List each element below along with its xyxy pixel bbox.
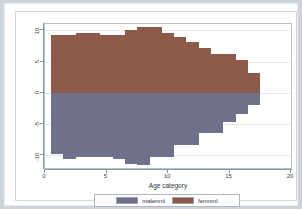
bar-malenml-15 bbox=[223, 93, 235, 122]
bar-femnml-11 bbox=[174, 37, 186, 93]
bar-malenml-14 bbox=[211, 93, 223, 133]
legend-label-male: malenml bbox=[142, 198, 165, 204]
legend-item-female[interactable]: femnml bbox=[172, 197, 218, 204]
bar-femnml-4 bbox=[88, 33, 100, 93]
bar-femnml-8 bbox=[137, 27, 149, 93]
x-tick-label: 0 bbox=[42, 173, 45, 179]
x-tick-label: 10 bbox=[164, 173, 171, 179]
bar-malenml-10 bbox=[162, 93, 174, 157]
x-tick-label: 5 bbox=[104, 173, 107, 179]
bar-malenml-5 bbox=[100, 93, 112, 157]
bar-malenml-16 bbox=[236, 93, 248, 114]
y-tick-label: 0 bbox=[34, 91, 40, 94]
chart-outer-frame: 1050-5-10 05101520 Age category malenml … bbox=[15, 11, 297, 201]
x-axis-title: Age category bbox=[44, 182, 292, 189]
bar-femnml-10 bbox=[162, 33, 174, 93]
bar-malenml-17 bbox=[248, 93, 260, 106]
legend-swatch-male bbox=[116, 197, 138, 204]
bar-femnml-16 bbox=[236, 60, 248, 93]
screenshot-card: 1050-5-10 05101520 Age category malenml … bbox=[5, 4, 297, 205]
x-axis: 05101520 bbox=[44, 169, 292, 183]
chart-legend[interactable]: malenml femnml bbox=[94, 194, 240, 207]
bar-malenml-9 bbox=[150, 93, 162, 157]
bar-femnml-7 bbox=[125, 30, 137, 93]
legend-swatch-female bbox=[172, 197, 194, 204]
bar-malenml-11 bbox=[174, 93, 186, 146]
bar-malenml-3 bbox=[76, 93, 88, 157]
bar-femnml-17 bbox=[248, 73, 260, 93]
bar-femnml-14 bbox=[211, 54, 223, 93]
bar-femnml-9 bbox=[150, 27, 162, 93]
bar-malenml-7 bbox=[125, 93, 137, 164]
bar-malenml-12 bbox=[186, 93, 198, 146]
y-axis: 1050-5-10 bbox=[16, 23, 44, 169]
bar-malenml-6 bbox=[113, 93, 125, 159]
legend-item-male[interactable]: malenml bbox=[116, 197, 165, 204]
plot-box bbox=[44, 23, 292, 169]
plot-area bbox=[44, 23, 292, 169]
bar-femnml-1 bbox=[51, 35, 63, 93]
grid-line bbox=[45, 30, 291, 31]
x-axis-line bbox=[44, 169, 292, 170]
bar-femnml-3 bbox=[76, 33, 88, 93]
y-tick-label: -5 bbox=[34, 122, 40, 127]
y-tick-label: 5 bbox=[34, 60, 40, 63]
bar-malenml-1 bbox=[51, 93, 63, 154]
legend-label-female: femnml bbox=[198, 198, 218, 204]
y-tick-label: 10 bbox=[34, 28, 40, 34]
bar-femnml-13 bbox=[199, 48, 211, 92]
bar-femnml-15 bbox=[223, 54, 235, 93]
bar-malenml-8 bbox=[137, 93, 149, 166]
bar-femnml-2 bbox=[63, 35, 75, 93]
bar-femnml-12 bbox=[186, 42, 198, 93]
bar-femnml-5 bbox=[100, 35, 112, 93]
bar-malenml-2 bbox=[63, 93, 75, 159]
y-tick-label: -10 bbox=[34, 153, 40, 161]
bar-femnml-6 bbox=[113, 35, 125, 93]
bar-malenml-4 bbox=[88, 93, 100, 157]
x-tick-label: 15 bbox=[225, 173, 232, 179]
bar-malenml-13 bbox=[199, 93, 211, 133]
x-tick-label: 20 bbox=[287, 173, 294, 179]
